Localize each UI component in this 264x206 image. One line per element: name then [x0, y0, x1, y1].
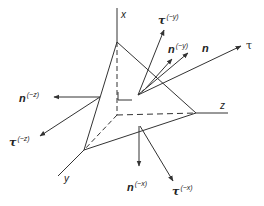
edge-x-y — [84, 42, 117, 150]
edge-y-z — [84, 113, 196, 150]
tau-neg-z-label: τ(−z) — [9, 135, 30, 148]
n-arrow — [138, 53, 188, 95]
y-axis — [58, 150, 84, 176]
tau-neg-x-arrow — [140, 126, 173, 181]
face-marker — [118, 92, 132, 100]
tau-neg-y-arrow — [138, 30, 164, 95]
n-neg-z-label: n(−z) — [19, 91, 39, 104]
tau-neg-x-label: τ(−x) — [172, 184, 193, 197]
x-axis-label: x — [121, 10, 126, 20]
tau-arrow — [138, 46, 241, 95]
z-axis-hidden — [117, 113, 196, 115]
tetrahedron-diagram: x z y τ(−y) n(−y) n τ n(−z) τ(−z) n(−x) … — [0, 0, 264, 206]
n-label: n — [202, 43, 209, 54]
tau-neg-y-label: τ(−y) — [158, 13, 179, 26]
n-neg-y-label: n(−y) — [168, 42, 188, 55]
y-axis-label: y — [64, 174, 69, 184]
z-axis-label: z — [220, 101, 225, 111]
n-neg-y-arrow — [146, 59, 172, 88]
tau-neg-z-arrow — [40, 97, 100, 136]
tau-label: τ — [246, 40, 252, 51]
n-neg-x-label: n(−x) — [127, 180, 147, 193]
